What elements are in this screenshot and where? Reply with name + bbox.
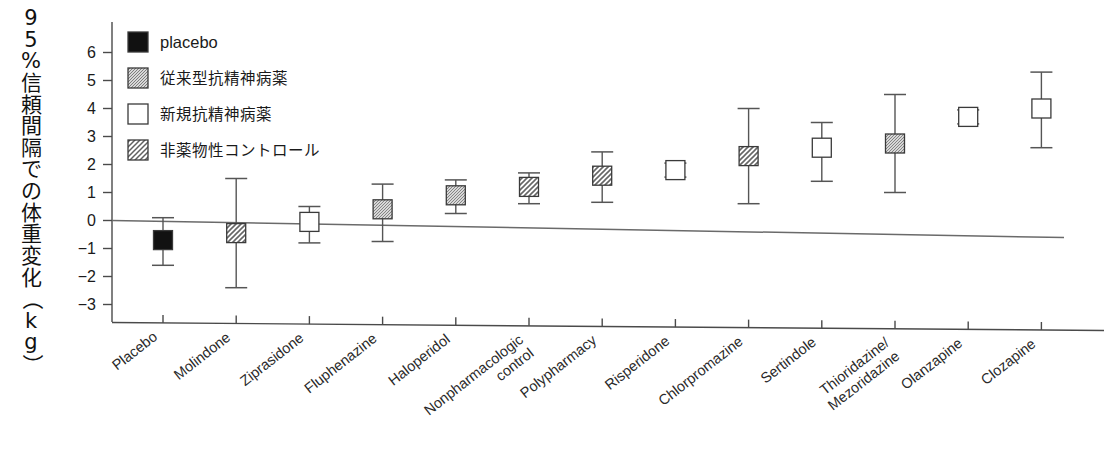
data-point [957, 107, 979, 126]
zero-reference-line [112, 221, 1064, 238]
y-tick-label: 0 [87, 212, 96, 229]
legend-swatch-diagonal-hatch [128, 140, 148, 160]
x-category-label-line: Molindone [171, 329, 234, 383]
data-points [152, 72, 1052, 288]
legend-swatch-filled-black [128, 32, 148, 52]
legend-item: 新規抗精神病薬 [128, 104, 272, 124]
legend-label: 非薬物性コントロール [160, 142, 320, 160]
x-category-label-line: Fluphenazine [301, 330, 379, 396]
legend-swatch-open-white [128, 104, 148, 124]
x-category-label: Olanzapine [898, 335, 966, 393]
data-point [372, 184, 394, 241]
legend-label: 従来型抗精神病薬 [160, 70, 288, 88]
data-point [664, 161, 686, 180]
x-category-label-line: Haloperidol [385, 331, 453, 389]
marker-diagonal-hatch [227, 224, 246, 243]
x-category-label: Risperidone [602, 332, 673, 392]
x-category-label-line: Risperidone [602, 332, 673, 392]
x-category-label: Placebo [109, 328, 160, 373]
data-point [738, 109, 760, 204]
marker-fine-hatch [446, 186, 465, 205]
x-category-label: Polypharmacy [517, 331, 600, 401]
y-tick-label: 2 [87, 156, 96, 173]
x-category-label: Thioridazine/Mezoridazine [814, 334, 903, 414]
x-category-label: Haloperidol [385, 331, 453, 389]
y-tick-label: −2 [78, 268, 96, 285]
y-tick-label: −3 [78, 296, 96, 313]
x-category-label-line: Olanzapine [898, 335, 966, 393]
marker-diagonal-hatch [739, 147, 758, 166]
x-axis-line [112, 323, 1104, 331]
chart-legend: placebo従来型抗精神病薬新規抗精神病薬非薬物性コントロール [128, 32, 320, 160]
x-category-label: Clozapine [978, 335, 1039, 387]
marker-diagonal-hatch [520, 177, 539, 196]
data-point [518, 173, 540, 204]
y-tick-label: −1 [78, 240, 96, 257]
x-category-label: Ziprasidone [237, 330, 307, 389]
marker-open-white [812, 138, 831, 157]
data-point [811, 123, 833, 182]
legend-item: placebo [128, 32, 218, 52]
x-category-label-line: Sertindole [758, 334, 819, 387]
marker-filled-black [154, 231, 173, 250]
x-axis-category-labels: PlaceboMolindoneZiprasidoneFluphenazineH… [109, 328, 1039, 431]
marker-open-white [666, 161, 685, 180]
marker-fine-hatch [886, 134, 905, 153]
x-category-label-line: Polypharmacy [517, 331, 600, 401]
legend-item: 非薬物性コントロール [128, 140, 320, 160]
data-point [152, 218, 174, 266]
marker-fine-hatch [373, 200, 392, 219]
data-point [884, 95, 906, 193]
x-category-label: Molindone [171, 329, 234, 383]
chart-canvas: 6543210−1−2−3 PlaceboMolindoneZiprasidon… [0, 0, 1118, 460]
legend-swatch-fine-hatch [128, 68, 148, 88]
y-axis-ticks: 6543210−1−2−3 [78, 44, 112, 313]
weight-change-chart: 95%信頼間隔での体重変化（kg） 6543210−1−2−3 [0, 0, 1118, 460]
y-tick-label: 6 [87, 44, 96, 61]
x-category-label: Fluphenazine [301, 330, 379, 396]
data-point [1030, 72, 1052, 148]
x-category-label-line: Ziprasidone [237, 330, 307, 389]
x-axis [112, 315, 1104, 331]
data-point [591, 152, 613, 202]
data-point [298, 207, 320, 243]
x-category-label-line: Placebo [109, 328, 160, 373]
x-category-label-line: Clozapine [978, 335, 1039, 387]
legend-item: 従来型抗精神病薬 [128, 68, 288, 88]
x-category-label: Sertindole [758, 334, 819, 387]
marker-diagonal-hatch [593, 166, 612, 185]
y-tick-label: 3 [87, 128, 96, 145]
legend-label: 新規抗精神病薬 [160, 106, 272, 124]
y-tick-label: 1 [87, 184, 96, 201]
y-tick-label: 5 [87, 72, 96, 89]
marker-open-white [959, 107, 978, 126]
data-point [445, 180, 467, 214]
zero-line [112, 221, 1064, 238]
marker-open-white [1032, 99, 1051, 118]
y-tick-label: 4 [87, 100, 96, 117]
marker-open-white [300, 212, 319, 231]
legend-label: placebo [160, 33, 218, 51]
data-point [225, 179, 247, 288]
